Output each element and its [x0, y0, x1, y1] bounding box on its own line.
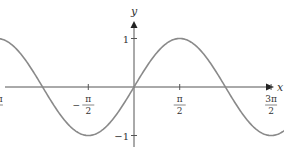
y-axis: y [130, 5, 138, 147]
x-tick: π2− [73, 84, 95, 116]
y-tick: 1 [123, 34, 137, 45]
x-tick-denominator: 2 [177, 106, 183, 116]
x-tick-numerator: π [85, 94, 91, 104]
x-tick: 3π2− [0, 84, 3, 116]
y-tick-label: 1 [123, 34, 129, 45]
y-axis-label: y [130, 5, 138, 18]
x-tick-denominator: 2 [85, 106, 91, 116]
x-axis: x [5, 81, 284, 94]
y-tick-label: −1 [114, 131, 129, 142]
x-tick: π2 [174, 84, 186, 116]
sine-chart: x y 5π2−3π2−π2−π23π25π21−1 [0, 0, 284, 157]
x-axis-label: x [277, 81, 284, 94]
x-tick-denominator: 2 [268, 106, 274, 116]
x-tick-sign: − [73, 100, 81, 110]
x-tick-numerator: 3π [265, 94, 277, 104]
x-tick-numerator: π [177, 94, 183, 104]
y-axis-arrow-icon [131, 21, 138, 28]
x-axis-arrow-icon [266, 84, 274, 91]
x-tick-numerator: 3π [0, 94, 3, 104]
